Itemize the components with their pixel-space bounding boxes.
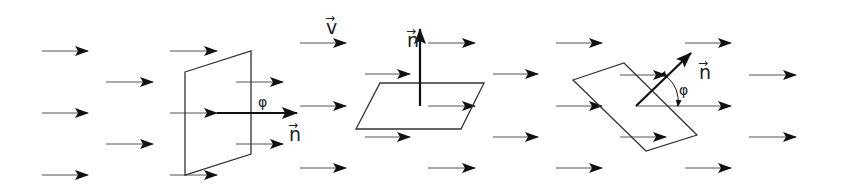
angle-phi-label: φ <box>679 82 688 98</box>
field-arrows <box>556 43 796 168</box>
surface <box>573 63 697 151</box>
normal-vector-arrow <box>636 53 691 106</box>
panel-parallel-surface: n → v → <box>300 11 538 168</box>
vector-arrow-symbol: → <box>406 24 416 38</box>
angle-arc <box>667 77 678 106</box>
vector-arrow-symbol: → <box>325 11 335 25</box>
flux-diagram: n → φ n → v → n → φ <box>0 0 841 193</box>
panel-perpendicular-surface: n → φ <box>42 51 301 175</box>
vector-arrow-symbol: → <box>698 56 708 70</box>
vector-arrow-symbol: → <box>288 118 298 132</box>
panel-tilted-surface: n → φ <box>556 43 796 168</box>
angle-phi-label: φ <box>258 94 267 110</box>
